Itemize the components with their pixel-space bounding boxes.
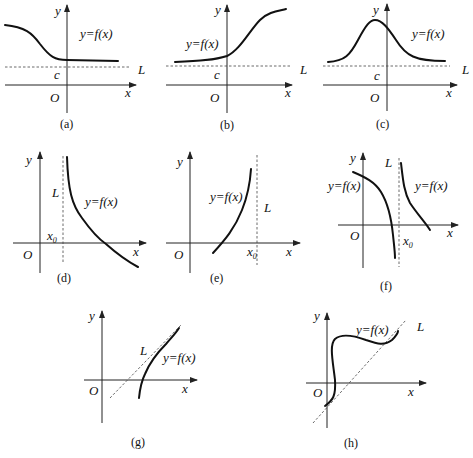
function-label: y=f(x) [354,322,389,337]
panel-caption: (e) [210,271,223,285]
constant-label: c [54,67,60,82]
origin-label: O [50,90,60,105]
panel-caption: (h) [344,436,358,450]
asymptote-label: L [137,62,145,77]
y-axis-label: y [213,2,221,17]
asymptote-label: L [263,200,271,215]
origin-label: O [313,385,323,400]
origin-label: O [174,247,184,262]
panel-caption: (b) [220,118,234,132]
x-axis-label: x [285,244,292,259]
panel-c: y y=f(x) L c O x (c) [323,2,469,131]
panel-e: y y=f(x) L x0 O x (e) [166,152,300,285]
x-axis-label: x [445,85,452,100]
panel-h: y y=f(x) L O x (h) [306,308,426,450]
function-label: y=f(x) [184,36,219,51]
origin-label: O [23,247,33,262]
function-label: y=f(x) [78,26,113,41]
panel-g: y L y=f(x) O x (g) [84,308,197,449]
x-axis-label: x [132,244,139,259]
asymptote-label: L [461,62,469,77]
asymptote-label: L [51,185,59,200]
panel-caption: (a) [60,117,73,131]
y-axis-label: y [348,150,356,165]
x0-label: x0 [46,228,57,245]
panel-caption: (d) [57,271,71,285]
asymptote-label: L [139,343,147,358]
y-axis-label: y [87,308,95,323]
function-curve-right [401,163,430,230]
x-axis-label: x [124,85,131,100]
panel-caption: (f) [380,279,392,293]
origin-label: O [370,90,380,105]
constant-label: c [214,67,220,82]
origin-label: O [89,383,99,398]
x-axis-label: x [407,384,414,399]
y-axis-label: y [24,152,32,167]
function-label: y=f(x) [208,189,243,204]
function-label: y=f(x) [83,194,118,209]
x-axis-label: x [284,85,291,100]
constant-label: c [374,68,380,83]
function-curve [325,331,398,406]
asymptote-label: L [416,319,424,334]
asymptote-label: L [384,155,392,170]
y-axis-label: y [312,308,320,323]
y-axis-label: y [371,2,379,17]
y-axis-label: y [175,154,183,169]
x-axis-label: x [446,225,453,240]
function-label-left: y=f(x) [326,178,361,193]
y-axis-label: y [53,3,61,18]
panel-b: y y=f(x) L c O x (b) [166,2,307,132]
panel-caption: (g) [131,435,145,449]
panel-caption: (c) [376,117,389,131]
asymptote-figure: y y=f(x) L c O x (a) y y=f(x) L c O x (b… [0,0,473,458]
function-label-right: y=f(x) [413,178,448,193]
panel-f: y L y=f(x) y=f(x) O x0 x (f) [326,150,458,293]
function-label: y=f(x) [410,26,445,41]
asymptote-label: L [299,62,307,77]
panel-a: y y=f(x) L c O x (a) [5,3,145,131]
x0-label: x0 [402,233,413,250]
function-curve [213,169,251,253]
origin-label: O [350,228,360,243]
x0-label: x0 [246,244,257,261]
origin-label: O [210,90,220,105]
x-axis-label: x [181,381,188,396]
panel-d: y L y=f(x) x0 O x (d) [13,152,146,285]
function-label: y=f(x) [161,350,196,365]
function-curve [67,157,138,267]
